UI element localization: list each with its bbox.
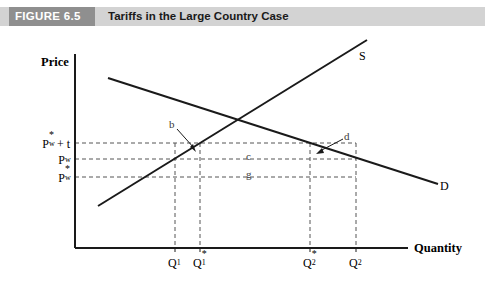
quantity-tick-q2: Q2 (349, 255, 363, 269)
supply-demand-plot (0, 26, 485, 284)
q1-star-sub: 1 (202, 259, 206, 267)
pw-star-base: P (58, 171, 65, 185)
pw-plus-t-marks: *w (49, 136, 54, 148)
quantity-tick-q1: Q1 (168, 255, 182, 269)
price-tick-pw-star: P*w (22, 170, 70, 184)
pw-star-marks: *w (65, 170, 70, 182)
quantity-tick-q1-star: Q*1 (193, 255, 207, 269)
area-label-c: c (246, 151, 251, 162)
price-guide-lines (75, 143, 356, 177)
price-tick-pw-plus-t: P*w+ t (22, 136, 70, 150)
q1-marks: 1 (177, 255, 182, 267)
pw-star-sub: w (65, 174, 71, 182)
demand-curve (108, 78, 438, 184)
q2-marks: 2 (358, 255, 363, 267)
pw-plus-t-sub: w (49, 140, 55, 148)
q2-star-base: Q (303, 256, 312, 270)
area-b-arrow (177, 129, 196, 152)
area-label-d: d (344, 131, 350, 142)
q2-base: Q (349, 256, 358, 270)
supply-curve (98, 40, 367, 206)
figure-title: Tariffs in the Large Country Case (108, 10, 289, 23)
figure-container: FIGURE 6.5 Tariffs in the Large Country … (0, 0, 485, 284)
q2-sub: 2 (358, 259, 362, 267)
area-label-b: b (169, 119, 175, 130)
q1-base: Q (168, 256, 177, 270)
q1-sub: 1 (177, 259, 181, 267)
figure-number-label: FIGURE 6.5 (15, 10, 95, 23)
q1-star-base: Q (193, 256, 202, 270)
quantity-tick-q2-star: Q*2 (303, 255, 317, 269)
q2-star-sub: 2 (312, 259, 316, 267)
price-tick-pw: Pw (22, 152, 70, 166)
supply-curve-label: S (359, 50, 366, 62)
demand-curve-label: D (440, 180, 449, 192)
quantity-axis-label: Quantity (414, 242, 462, 255)
pw-plus-t-base: P (42, 137, 49, 151)
pw-base: P (58, 153, 65, 167)
q1-star-marks: *1 (202, 255, 207, 267)
q2-star-marks: *2 (312, 255, 317, 267)
area-label-g: g (246, 169, 252, 180)
price-axis-label: Price (41, 56, 69, 69)
pw-plus-t-suffix: + t (57, 137, 70, 151)
